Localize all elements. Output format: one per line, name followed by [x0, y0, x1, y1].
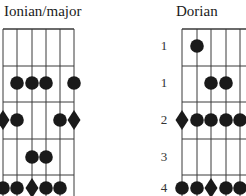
note-dot-icon	[10, 181, 24, 195]
finger-label: 1	[158, 76, 170, 90]
root-note-diamond-icon	[176, 110, 189, 130]
root-note-diamond-icon	[0, 110, 10, 130]
note-dot-icon	[190, 113, 204, 127]
root-note-diamond-icon	[26, 178, 39, 196]
root-note-diamond-icon	[68, 110, 81, 130]
note-dot-icon	[25, 150, 39, 164]
note-dot-icon	[219, 76, 233, 90]
note-dot-icon	[233, 181, 246, 195]
note-dot-icon	[219, 181, 233, 195]
dorian-fretboard	[175, 29, 246, 196]
finger-label: 3	[158, 150, 170, 164]
note-dot-icon	[39, 181, 53, 195]
fretboard-diagrams	[0, 0, 246, 196]
note-dot-icon	[53, 113, 67, 127]
note-dot-icon	[10, 113, 24, 127]
note-dot-icon	[204, 113, 218, 127]
finger-label: 2	[158, 113, 170, 127]
finger-label: 4	[158, 181, 170, 195]
finger-label: 1	[158, 39, 170, 53]
note-dot-icon	[233, 113, 246, 127]
root-note-diamond-icon	[205, 178, 218, 196]
note-dot-icon	[175, 181, 189, 195]
note-dot-icon	[219, 113, 233, 127]
note-dot-icon	[190, 181, 204, 195]
note-dot-icon	[0, 181, 10, 195]
note-dot-icon	[190, 39, 204, 53]
note-dot-icon	[10, 76, 24, 90]
note-dot-icon	[204, 76, 218, 90]
note-dot-icon	[39, 76, 53, 90]
note-dot-icon	[25, 76, 39, 90]
note-dot-icon	[39, 150, 53, 164]
note-dot-icon	[53, 181, 67, 195]
ionian-fretboard	[0, 29, 81, 196]
note-dot-icon	[67, 76, 81, 90]
